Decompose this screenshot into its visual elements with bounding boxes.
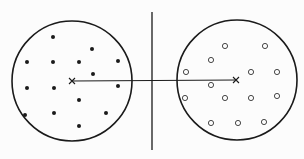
filled-dot-icon: [116, 59, 120, 63]
filled-dot-icon: [51, 35, 55, 39]
filled-dot-icon: [77, 124, 81, 128]
open-circle-icon: [208, 82, 213, 87]
filled-dot-icon: [23, 113, 27, 117]
filled-dot-icon: [25, 60, 29, 64]
open-circle-icon: [248, 95, 253, 100]
open-circle-icon: [183, 69, 188, 74]
open-circle-icon: [208, 120, 213, 125]
open-circle-icon: [274, 93, 279, 98]
open-circle-icon: [222, 43, 227, 48]
filled-dot-icon: [77, 98, 81, 102]
filled-dot-icon: [116, 84, 120, 88]
open-circle-icon: [182, 95, 187, 100]
filled-dot-icon: [90, 47, 94, 51]
open-circle-icon: [235, 120, 240, 125]
filled-dot-icon: [52, 111, 56, 115]
filled-dot-icon: [91, 72, 95, 76]
open-circle-icon: [262, 43, 267, 48]
open-circle-icon: [248, 69, 253, 74]
open-circle-icon: [261, 119, 266, 124]
filled-dot-icon: [51, 60, 55, 64]
open-circle-icon: [222, 95, 227, 100]
filled-dot-icon: [52, 86, 56, 90]
open-circle-icon: [208, 57, 213, 62]
filled-dot-icon: [104, 111, 108, 115]
filled-dot-icon: [25, 86, 29, 90]
filled-dot-icon: [77, 60, 81, 64]
open-circle-icon: [274, 69, 279, 74]
centroid-connector-line: [72, 80, 236, 81]
cluster-diagram: [0, 0, 304, 159]
